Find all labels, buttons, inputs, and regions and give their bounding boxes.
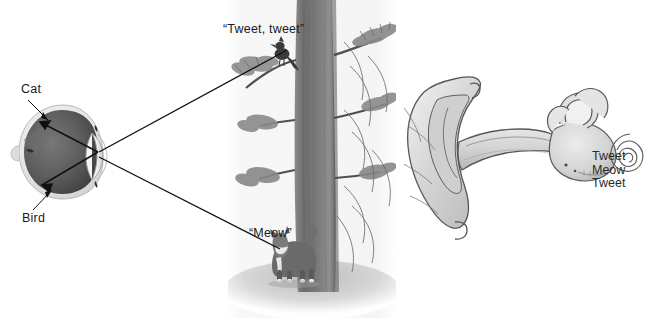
eye-label-bird: Bird [22, 212, 45, 225]
ear-canal [458, 129, 556, 170]
scene-photo-panel [224, 0, 400, 320]
cochlea-output-readout: Tweet Meow Tweet [592, 150, 625, 191]
caption-cat-sound: “Meow” [249, 227, 292, 240]
cochlea-output-line-1: Tweet [592, 150, 625, 164]
figure-canvas: Cat Bird “Tweet, tweet” “Meow” Tweet Meo… [0, 0, 649, 327]
illustration-artwork [0, 0, 649, 327]
cochlea-output-line-2: Meow [592, 164, 625, 178]
cochlea-output-line-3: Tweet [592, 177, 625, 191]
eye-cross-section [11, 105, 107, 199]
caption-bird-sound: “Tweet, tweet” [223, 23, 304, 36]
eye-label-cat: Cat [21, 83, 41, 96]
